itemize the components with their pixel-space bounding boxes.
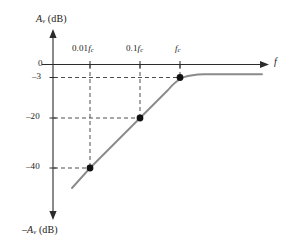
plot-canvas — [0, 0, 285, 245]
data-point-minus20 — [137, 115, 144, 122]
y-axis-bottom-title-symbol: –A — [22, 224, 33, 235]
y-tick-label-0: 0 — [38, 59, 43, 68]
x-tick-label-0.1fc-sub: c — [140, 46, 143, 53]
data-point-minus3 — [177, 74, 184, 81]
x-tick-label-0.1fc: 0.1fc — [126, 44, 143, 54]
x-tick-label-fc-sub: c — [178, 46, 181, 53]
y-tick-label-minus40: –40 — [26, 162, 40, 171]
x-tick-label-fc: fc — [175, 44, 181, 54]
x-axis-group — [42, 61, 269, 68]
y-axis-bottom-title: –Av (dB) — [22, 225, 58, 236]
y-axis-title: Av (dB) — [36, 14, 67, 25]
y-axis-top-arrow-icon — [49, 29, 56, 38]
x-tick-label-0.01fc: 0.01fc — [72, 44, 94, 54]
y-axis-group — [49, 29, 56, 220]
x-axis-title: f — [274, 57, 277, 67]
x-axis-title-symbol: f — [274, 56, 277, 67]
data-point-minus40 — [87, 165, 94, 172]
y-axis-bottom-title-unit: (dB) — [36, 224, 57, 235]
response-curve — [72, 74, 262, 188]
y-tick-label-minus3: –3 — [32, 72, 41, 81]
y-axis-bottom-arrow-icon — [49, 211, 56, 220]
x-tick-label-0.01fc-sub: c — [91, 46, 94, 53]
y-axis-title-unit: (dB) — [45, 13, 66, 24]
bode-plot-figure: Av (dB) –Av (dB) f 0 –3 –20 –40 0.01fc 0… — [0, 0, 285, 245]
y-tick-label-minus20: –20 — [26, 112, 40, 121]
x-axis-right-arrow-icon — [260, 61, 269, 68]
x-tick-label-0.01fc-coeff: 0.01 — [72, 43, 88, 53]
guide-lines — [54, 65, 180, 168]
x-tick-label-0.1fc-coeff: 0.1 — [126, 43, 138, 53]
